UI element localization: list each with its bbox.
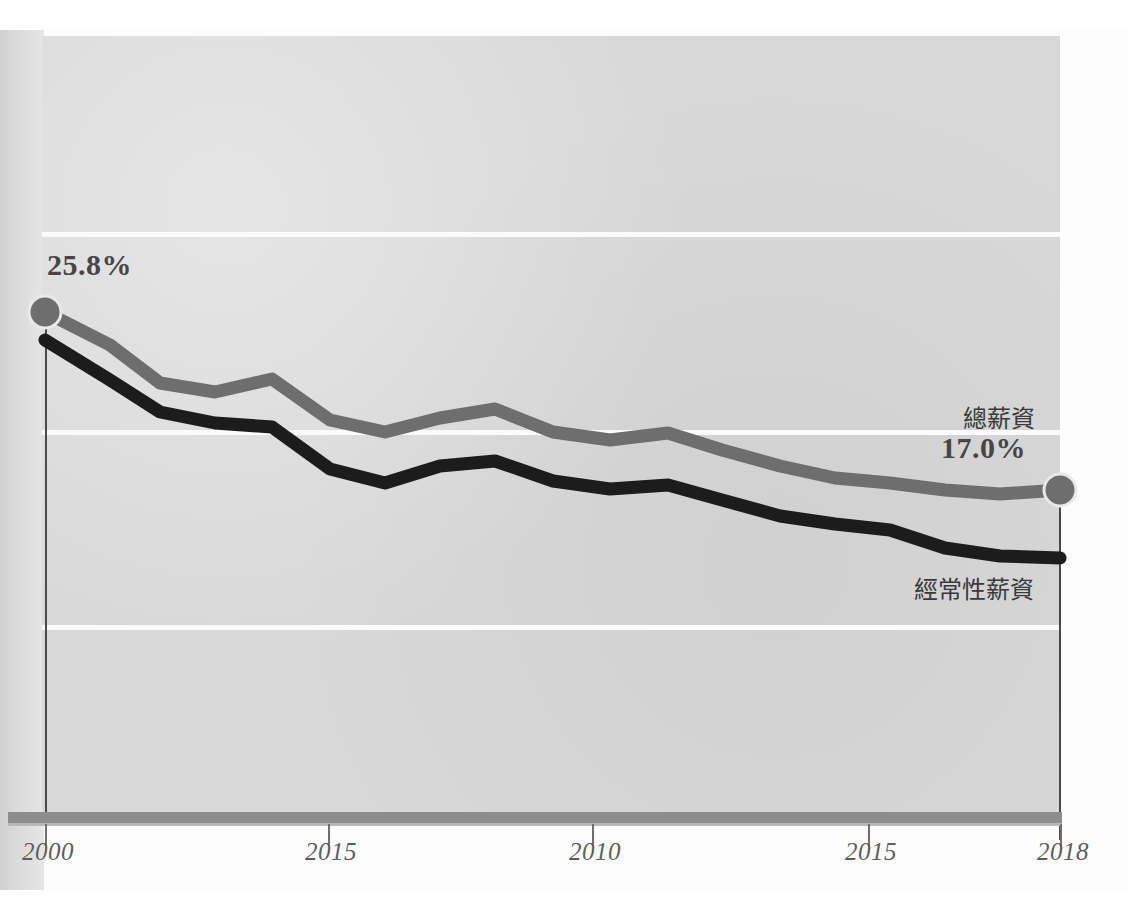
start-value-label: 25.8%	[47, 248, 132, 282]
x-tick-label-3: 2015	[845, 838, 897, 866]
series-line-total	[45, 312, 1060, 494]
x-axis-bar-shadow	[8, 823, 1062, 826]
end-point-marker	[1044, 474, 1076, 506]
scan-edge-top	[0, 0, 1128, 30]
chart-page: 25.8% 17.0% 總薪資 經常性薪資 2000 2015 2010 201…	[0, 0, 1128, 922]
x-tick-label-0: 2000	[22, 838, 74, 866]
x-axis-bar	[8, 812, 1062, 823]
series-label-total: 總薪資	[963, 399, 1035, 434]
x-tick-label-4: 2018	[1037, 838, 1089, 866]
x-tick-label-1: 2015	[305, 838, 357, 866]
x-tick-label-2: 2010	[569, 838, 621, 866]
end-value-label: 17.0%	[941, 431, 1026, 465]
scan-edge-bottom	[0, 890, 1128, 922]
start-point-marker	[29, 296, 61, 328]
series-line-regular	[45, 340, 1060, 558]
series-label-regular: 經常性薪資	[914, 570, 1034, 605]
